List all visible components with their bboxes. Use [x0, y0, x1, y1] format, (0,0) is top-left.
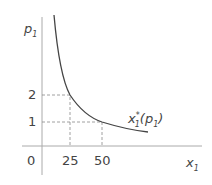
dashed-guide-p2	[42, 95, 70, 146]
x-tick-50: 50	[94, 154, 111, 167]
x-tick-25: 25	[62, 154, 79, 167]
y-axis-label: p1	[24, 22, 37, 39]
x-axis-label: x1	[186, 156, 199, 173]
y-tick-1: 1	[28, 115, 36, 128]
curve-label: x*1(p1)	[128, 112, 163, 129]
x-tick-0: 0	[27, 154, 35, 167]
y-tick-2: 2	[28, 88, 36, 101]
dashed-guide-p1	[42, 122, 102, 146]
